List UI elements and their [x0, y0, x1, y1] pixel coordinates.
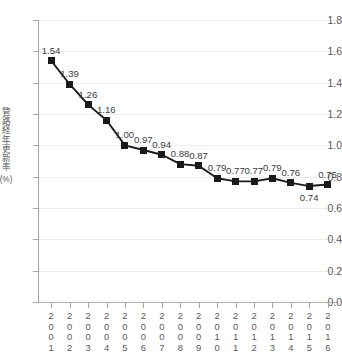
- data-point-label: 0.97: [134, 135, 153, 145]
- gridline: [38, 51, 337, 52]
- y-tick: [33, 271, 38, 272]
- x-axis-label-digit: 6: [321, 343, 335, 354]
- x-axis-label-digit: 1: [44, 343, 58, 354]
- x-axis-label-digit: 2: [136, 311, 150, 322]
- y-axis-label: 0.6: [312, 203, 342, 213]
- data-point-marker: [103, 117, 110, 124]
- y-tick: [33, 302, 38, 303]
- y-axis-line: [38, 20, 39, 303]
- x-tick: [254, 302, 255, 308]
- x-axis-label-digit: 2: [63, 311, 77, 322]
- gridline: [38, 83, 337, 84]
- data-point-marker: [287, 179, 294, 186]
- data-point-label: 1.00: [115, 130, 134, 140]
- x-axis-label: 2012: [247, 311, 261, 353]
- gridline: [38, 20, 337, 21]
- x-tick: [70, 302, 71, 308]
- line-chart: 1.8 1.6 1.4 1.2 1.0 0.8 0.6 0.4 0.2 0.0 …: [0, 0, 342, 364]
- data-point-marker: [195, 162, 202, 169]
- data-point-label: 0.76: [281, 168, 300, 178]
- x-axis-label-digit: 2: [173, 311, 187, 322]
- plot-area: [38, 20, 337, 302]
- y-axis-label: 1.2: [312, 109, 342, 119]
- x-axis-label-digit: 2: [247, 311, 261, 322]
- data-point-label: 1.16: [97, 105, 116, 115]
- gridline: [38, 208, 337, 209]
- data-point-marker: [177, 161, 184, 168]
- y-axis-label: 1.0: [312, 140, 342, 150]
- x-axis-label: 2004: [100, 311, 114, 353]
- x-axis-baseline: [38, 302, 337, 303]
- x-axis-label-digit: 4: [284, 343, 298, 354]
- x-axis-label-digit: 2: [192, 311, 206, 322]
- x-axis-label: 2010: [210, 311, 224, 353]
- x-axis-label: 2011: [229, 311, 243, 353]
- x-axis-label-digit: 2: [44, 311, 58, 322]
- x-axis-label-digit: 3: [81, 343, 95, 354]
- x-axis-label-digit: 8: [173, 343, 187, 354]
- gridline: [38, 271, 337, 272]
- x-axis-label-digit: 7: [155, 343, 169, 354]
- data-point-marker: [158, 151, 165, 158]
- data-point-marker: [269, 175, 276, 182]
- x-tick: [180, 302, 181, 308]
- data-point-label: 0.74: [300, 193, 319, 203]
- data-point-label: 0.79: [208, 163, 227, 173]
- x-axis-label-digit: 2: [247, 343, 261, 354]
- x-axis-label-digit: 2: [155, 311, 169, 322]
- x-axis-label: 2002: [63, 311, 77, 353]
- y-tick: [33, 20, 38, 21]
- y-tick: [33, 145, 38, 146]
- x-axis-label: 2007: [155, 311, 169, 353]
- gridline: [38, 239, 337, 240]
- x-tick: [236, 302, 237, 308]
- x-axis-label: 2008: [173, 311, 187, 353]
- y-axis-label: 0.4: [312, 234, 342, 244]
- y-tick: [33, 208, 38, 209]
- y-tick: [33, 51, 38, 52]
- y-axis-unit: (%): [0, 175, 14, 184]
- data-point-marker: [324, 181, 331, 188]
- data-point-marker: [140, 147, 147, 154]
- x-axis-label-digit: 2: [118, 311, 132, 322]
- y-tick: [33, 177, 38, 178]
- x-axis-label: 2016: [321, 311, 335, 353]
- y-tick: [33, 114, 38, 115]
- x-axis-label: 2015: [302, 311, 316, 353]
- data-point-label: 0.88: [171, 149, 190, 159]
- x-tick: [272, 302, 273, 308]
- x-axis-label-digit: 9: [192, 343, 206, 354]
- x-axis-label-digit: 2: [321, 311, 335, 322]
- y-tick: [33, 83, 38, 84]
- y-axis-label: 1.4: [312, 78, 342, 88]
- x-tick: [107, 302, 108, 308]
- x-axis-label-digit: 2: [302, 311, 316, 322]
- x-axis-label-digit: 2: [210, 311, 224, 322]
- gridline: [38, 145, 337, 146]
- x-axis-label: 2005: [118, 311, 132, 353]
- x-tick: [217, 302, 218, 308]
- data-point-label: 0.94: [152, 140, 171, 150]
- x-axis-label-digit: 2: [100, 311, 114, 322]
- x-tick: [309, 302, 310, 308]
- y-tick: [33, 239, 38, 240]
- x-axis-label: 2003: [81, 311, 95, 353]
- data-point-label: 1.26: [79, 90, 98, 100]
- x-axis-label-digit: 2: [229, 311, 243, 322]
- x-tick: [88, 302, 89, 308]
- data-point-marker: [214, 175, 221, 182]
- x-tick: [51, 302, 52, 308]
- x-tick: [162, 302, 163, 308]
- x-tick: [291, 302, 292, 308]
- x-tick: [199, 302, 200, 308]
- gridline: [38, 114, 337, 115]
- x-tick: [143, 302, 144, 308]
- x-axis-label-digit: 5: [302, 343, 316, 354]
- x-axis-label-digit: 0: [210, 343, 224, 354]
- x-axis-label-digit: 2: [81, 311, 95, 322]
- data-point-label: 0.87: [189, 151, 208, 161]
- data-point-label: 0.75: [318, 170, 337, 180]
- x-tick: [125, 302, 126, 308]
- x-axis-label-digit: 3: [265, 343, 279, 354]
- x-axis-label-digit: 6: [136, 343, 150, 354]
